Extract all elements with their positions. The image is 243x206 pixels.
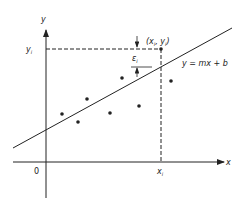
- origin-label: 0: [34, 167, 39, 176]
- residual-label: εi: [132, 54, 138, 64]
- data-points: [60, 47, 173, 124]
- data-point: [60, 112, 64, 116]
- y-axis-label: y: [40, 15, 46, 24]
- point-label: (xi, yi): [146, 37, 170, 47]
- highlighted-point: [159, 47, 163, 51]
- yi-label: yi: [25, 45, 33, 55]
- regression-diagram: y x 0 yi xi (xi, yi) εi y = mx + b: [0, 0, 243, 206]
- xi-label: xi: [156, 167, 164, 177]
- data-point: [76, 120, 80, 124]
- x-axis-label: x: [225, 158, 231, 167]
- data-point: [169, 79, 173, 83]
- line-equation-label: y = mx + b: [181, 59, 228, 68]
- data-point: [85, 97, 89, 101]
- data-point: [120, 76, 124, 80]
- data-point: [137, 104, 141, 108]
- data-point: [108, 111, 112, 115]
